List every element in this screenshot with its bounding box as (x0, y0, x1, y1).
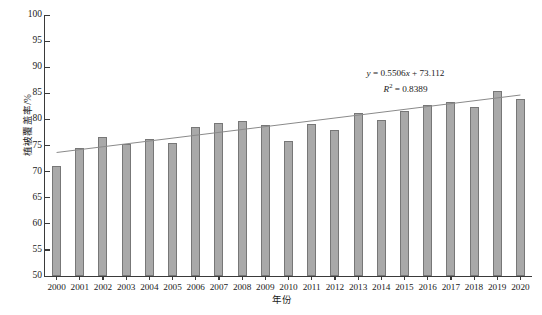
x-tick-label: 2005 (163, 282, 181, 292)
x-tick-label: 2016 (418, 282, 436, 292)
x-tick-mark (126, 276, 127, 280)
x-tick-mark (102, 276, 103, 280)
y-tick-label: 85 (33, 86, 43, 99)
x-tick-mark (334, 276, 335, 280)
x-tick-label: 2020 (511, 282, 529, 292)
x-tick-label: 2007 (210, 282, 228, 292)
x-tick-mark (497, 276, 498, 280)
x-tick-label: 2013 (349, 282, 367, 292)
equation-suffix: + 73.112 (410, 68, 445, 78)
x-tick-label: 2011 (303, 282, 321, 292)
x-tick-label: 2015 (395, 282, 413, 292)
x-tick-mark (474, 276, 475, 280)
x-tick-label: 2001 (71, 282, 89, 292)
x-tick-mark (242, 276, 243, 280)
regression-equation: y = 0.5506x + 73.112 (338, 67, 473, 80)
x-tick-mark (195, 276, 196, 280)
x-tick-mark (427, 276, 428, 280)
equation-body: = 0.5506 (371, 68, 406, 78)
y-tick-label: 70 (33, 165, 43, 178)
x-tick-mark (56, 276, 57, 280)
y-tick-label: 100 (28, 8, 42, 21)
x-tick-mark (79, 276, 80, 280)
x-tick-label: 2010 (279, 282, 297, 292)
plot-area: 50556065707580859095100 2000200120022003… (44, 15, 532, 277)
y-tick-label: 80 (33, 112, 43, 125)
x-tick-label: 2009 (256, 282, 274, 292)
x-tick-label: 2000 (47, 282, 65, 292)
chart-figure: 植被覆盖率/% 年份 50556065707580859095100 20002… (0, 0, 542, 315)
y-tick-label: 50 (33, 269, 43, 282)
x-tick-label: 2008 (233, 282, 251, 292)
x-tick-mark (265, 276, 266, 280)
y-tick-label: 90 (33, 60, 43, 73)
x-axis-title: 年份 (0, 292, 542, 306)
x-tick-label: 2004 (140, 282, 158, 292)
x-tick-label: 2002 (94, 282, 112, 292)
y-tick-label: 75 (33, 139, 43, 152)
regression-annotation: y = 0.5506x + 73.112 R2 = 0.8389 (338, 67, 473, 95)
x-tick-label: 2012 (326, 282, 344, 292)
y-tick-label: 55 (33, 243, 43, 256)
x-tick-label: 2018 (465, 282, 483, 292)
r-value: = 0.8389 (392, 84, 427, 94)
x-tick-mark (149, 276, 150, 280)
y-tick-label: 65 (33, 191, 43, 204)
x-tick-label: 2006 (187, 282, 205, 292)
x-tick-label: 2017 (442, 282, 460, 292)
x-tick-label: 2003 (117, 282, 135, 292)
y-tick-label: 60 (33, 217, 43, 230)
x-tick-mark (381, 276, 382, 280)
x-tick-mark (358, 276, 359, 280)
y-tick-label: 95 (33, 34, 43, 47)
regression-r-squared: R2 = 0.8389 (338, 80, 473, 96)
x-tick-mark (404, 276, 405, 280)
x-tick-mark (288, 276, 289, 280)
x-axis-title-text: 年份 (272, 292, 292, 306)
x-tick-label: 2019 (488, 282, 506, 292)
x-tick-mark (311, 276, 312, 280)
x-tick-mark (520, 276, 521, 280)
x-tick-mark (218, 276, 219, 280)
x-tick-mark (172, 276, 173, 280)
trendline (45, 15, 532, 276)
x-tick-mark (450, 276, 451, 280)
x-tick-label: 2014 (372, 282, 390, 292)
